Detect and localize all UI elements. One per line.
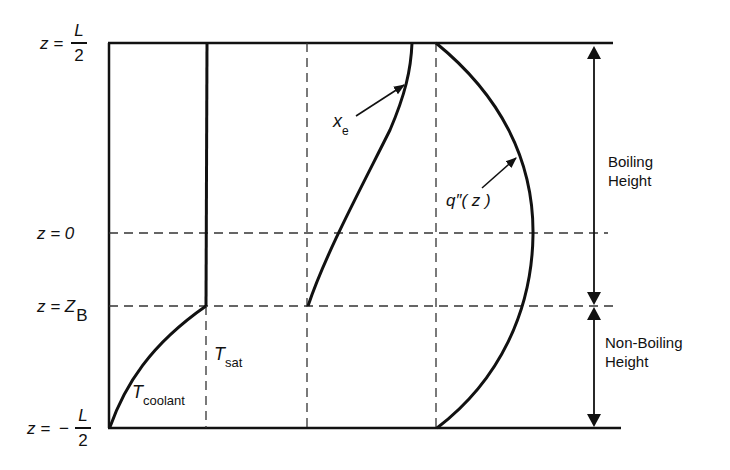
- x-e-label: xe: [333, 112, 349, 130]
- z-bottom-label-lhs: z =: [27, 420, 50, 437]
- z-boiling-onset-label: z = ZB: [37, 298, 88, 315]
- boiling-height-label-line1: Boiling: [608, 152, 653, 171]
- t-sat-line: [206, 43, 207, 306]
- t-coolant-curve: [110, 306, 206, 427]
- boiling-height-bottom-arrowhead: [587, 292, 601, 305]
- fraction-bar: [71, 42, 87, 44]
- z-zero-label: z = 0: [37, 225, 74, 242]
- z-top-fraction: L 2: [71, 22, 87, 64]
- non-boiling-height-label-line2: Height: [605, 352, 683, 371]
- z-bottom-sign: −: [59, 420, 69, 437]
- q-flux-label: q″( z ): [446, 192, 491, 209]
- z-bottom-numerator: L: [78, 407, 87, 424]
- x-e-subscript: e: [342, 124, 349, 138]
- z-top-denominator: 2: [74, 47, 83, 64]
- t-coolant-subscript: coolant: [143, 393, 185, 408]
- t-sat-symbol: T: [214, 344, 225, 364]
- x-e-symbol: x: [333, 111, 342, 131]
- q-flux-pointer-arrow: [482, 158, 516, 188]
- t-coolant-label: Tcoolant: [132, 383, 185, 401]
- boiling-height-top-arrowhead: [587, 46, 601, 59]
- x-e-curve: [308, 43, 412, 306]
- non-boiling-height-label-line1: Non-Boiling: [605, 333, 683, 352]
- z-bottom-fraction: L 2: [75, 407, 91, 449]
- non-boiling-height-top-arrowhead: [587, 307, 601, 320]
- q-flux-curve: [436, 43, 533, 428]
- z-boiling-onset-subscript: B: [76, 306, 87, 325]
- non-boiling-height-bottom-arrowhead: [587, 414, 601, 427]
- t-coolant-symbol: T: [132, 382, 143, 402]
- z-top-label-lhs: z =: [40, 35, 63, 52]
- z-bottom-denominator: 2: [78, 432, 87, 449]
- t-sat-subscript: sat: [225, 355, 242, 370]
- non-boiling-height-label: Non-Boiling Height: [605, 333, 683, 371]
- z-boiling-onset-lhs: z = Z: [37, 297, 75, 316]
- boiling-height-label-line2: Height: [608, 171, 653, 190]
- boiling-height-label: Boiling Height: [608, 152, 653, 190]
- z-top-numerator: L: [74, 22, 83, 39]
- fraction-bar: [75, 427, 91, 429]
- t-sat-label: Tsat: [214, 345, 242, 363]
- diagram-canvas: [0, 0, 730, 470]
